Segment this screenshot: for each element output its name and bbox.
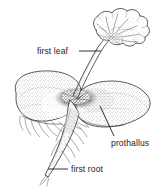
- label-prothallus: prothallus: [111, 138, 149, 148]
- shoot-junction: [54, 87, 98, 109]
- fern-prothallus-illustration: first leaf prothallus first root: [0, 0, 165, 190]
- label-first-root: first root: [71, 164, 104, 174]
- botanical-figure: first leaf prothallus first root: [0, 0, 165, 190]
- label-first-leaf: first leaf: [37, 46, 69, 56]
